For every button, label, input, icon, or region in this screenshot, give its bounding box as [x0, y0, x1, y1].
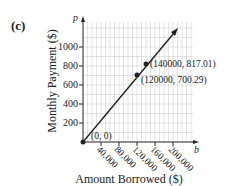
svg-text:600: 600 — [63, 79, 78, 90]
y-axis-title: Monthly Payment ($) — [45, 29, 59, 132]
y-var-label: p — [72, 12, 78, 23]
chart: (c) p b 200 400 600 800 1000 40,000 80,0… — [0, 0, 229, 186]
point-140000 — [144, 62, 149, 67]
panel-label: (c) — [11, 18, 25, 33]
svg-text:800: 800 — [63, 60, 78, 71]
x-var-label: b — [194, 144, 199, 155]
data-line — [81, 28, 179, 145]
x-axis-title: Amount Borrowed ($) — [75, 172, 182, 186]
point-label-origin: (0, 0) — [91, 131, 112, 142]
svg-text:1000: 1000 — [58, 41, 78, 52]
point-label-140000: (140000, 817.01) — [150, 59, 216, 70]
point-origin — [81, 140, 86, 145]
svg-text:400: 400 — [63, 98, 78, 109]
svg-text:200: 200 — [63, 117, 78, 128]
point-120000 — [135, 73, 140, 78]
y-tick-labels: 200 400 600 800 1000 — [58, 41, 78, 128]
x-tick-labels: 40,000 80,000 120,000 160,000 200,000 — [95, 144, 196, 173]
point-label-120000: (120000, 700.29) — [141, 75, 207, 86]
